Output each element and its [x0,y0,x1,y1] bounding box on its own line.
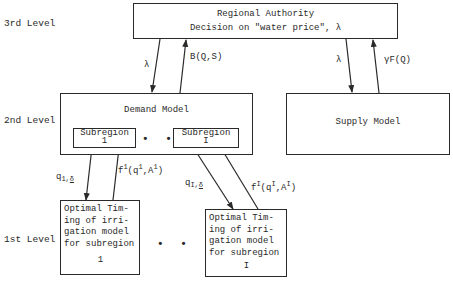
label-lambda-supply: λ [336,55,341,65]
model-1-line: ing of irri- [64,216,137,228]
model-1-line: for subregion [64,239,137,251]
demand-model-title: Demand Model [61,105,252,115]
arrow-lambda-to-supply [346,39,352,92]
label-f1: f1(q1,A1) [118,163,163,176]
subregion-I-index: I [174,137,238,146]
supply-model-box: Supply Model [286,93,450,155]
model-1-line: gation model [64,227,137,239]
model-1-line: Optimal Tim- [64,204,137,216]
label-qI-delta: qI,δ [185,178,203,189]
model-I-line: Optimal Tim- [209,213,284,225]
model-I-line: ing of irri- [209,225,284,237]
subregion-1-index: 1 [74,137,135,146]
arrow-lambda-to-demand [152,39,160,92]
model-1-index: 1 [64,255,137,267]
model-I-index: I [209,261,284,273]
regional-authority-subtitle: Decision on "water price", λ [134,23,397,33]
subregion-I-box: Subregion I [173,128,239,148]
supply-model-title: Supply Model [287,117,449,127]
model-I-line: for subregion [209,248,284,260]
arrow-bqs-to-authority [180,40,186,93]
label-q1-delta: q1,δ [56,172,74,183]
regional-authority-box: Regional Authority Decision on "water pr… [133,3,398,39]
label-bqs: B(Q,S) [190,52,222,62]
label-fI: fI(qI,AI) [251,180,296,193]
regional-authority-title: Regional Authority [134,9,397,19]
label-gfq: γF(Q) [384,55,411,65]
subregion-1-box: Subregion 1 [73,128,136,148]
level-label-1st: 1st Level [4,234,55,245]
level-label-3rd: 3rd Level [4,18,55,29]
optimal-timing-model-I: Optimal Tim- ing of irri- gation model f… [205,209,287,277]
optimal-timing-model-1: Optimal Tim- ing of irri- gation model f… [60,200,140,275]
label-lambda-demand: λ [144,60,149,70]
model-I-line: gation model [209,236,284,248]
level-label-2nd: 2nd Level [4,115,55,126]
arrow-gfq-to-authority [373,40,379,93]
